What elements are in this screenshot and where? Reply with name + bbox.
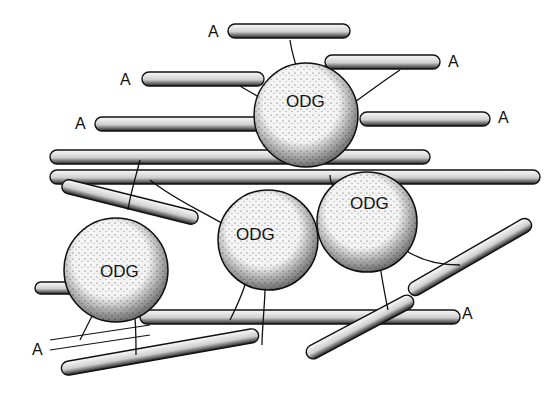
axon-fiber — [304, 293, 417, 362]
axon-fiber — [95, 117, 280, 131]
axon-label: A — [498, 110, 509, 126]
axon-fiber — [142, 72, 264, 86]
axon-label: A — [120, 72, 131, 88]
axon-label: A — [32, 342, 43, 358]
cell-label: ODG — [236, 226, 275, 243]
cell-body — [317, 172, 417, 272]
cell-label: ODG — [350, 195, 389, 212]
axon-fiber — [140, 310, 460, 324]
axon-fiber — [228, 24, 350, 38]
cell-label: ODG — [100, 263, 139, 280]
axon-label: A — [208, 24, 219, 40]
axon-fiber — [50, 170, 540, 184]
axon-fiber — [60, 328, 259, 377]
myelination-illustration — [0, 0, 556, 419]
axon-fiber — [325, 55, 440, 69]
axon-fiber — [360, 112, 490, 126]
axon-fiber — [406, 216, 534, 298]
cell-body — [254, 63, 358, 167]
axon-label: A — [75, 116, 86, 132]
axon-label: A — [448, 54, 459, 70]
axon-fiber — [50, 150, 430, 164]
axon-label: A — [462, 306, 473, 322]
cell-label: ODG — [286, 93, 325, 110]
